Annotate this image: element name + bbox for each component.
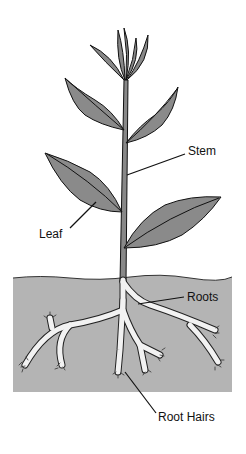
label-roots: Roots — [187, 291, 218, 303]
label-leaf: Leaf — [39, 228, 62, 240]
top-bud — [90, 28, 148, 80]
leaves — [45, 78, 221, 248]
label-root-hairs: Root Hairs — [158, 411, 215, 423]
stem — [120, 80, 128, 282]
label-stem: Stem — [188, 145, 216, 157]
plant-diagram — [0, 0, 246, 454]
